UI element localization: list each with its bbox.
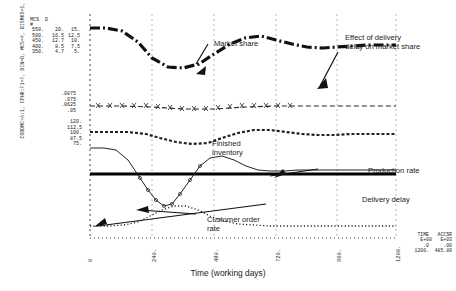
xtick-0: 0 bbox=[88, 259, 94, 262]
xtick-960: 960. bbox=[337, 249, 343, 262]
x-axis-title: Time (working days) bbox=[0, 268, 456, 278]
arrow-order-rate bbox=[136, 206, 149, 213]
y-ticks-col4: .0875 .075 .0625 .05 bbox=[54, 92, 76, 114]
leader-effect-delay bbox=[320, 52, 338, 86]
y-ticks-col5: 120. 112.5 100. 87.5 75. bbox=[60, 120, 82, 148]
arrow-market-share bbox=[196, 66, 206, 75]
annotation-market-share: Market share bbox=[214, 40, 258, 49]
xtick-240: 240. bbox=[152, 249, 158, 262]
annotation-customer-order-rate: Customer order rate bbox=[207, 216, 267, 233]
xtick-1200: 1200. bbox=[396, 246, 402, 262]
series-effect-markers bbox=[96, 103, 292, 111]
series-order-rate-markers bbox=[138, 164, 201, 207]
xtick-720: 720. bbox=[276, 249, 282, 262]
y-ticks-col3: 15. 12.5 10. 7.5 5. bbox=[62, 28, 80, 56]
summary-table: TIME ACCSR E+00 E+03 .0 .00 1200. 485.89 bbox=[415, 232, 452, 254]
xtick-480: 480. bbox=[214, 249, 220, 262]
annotation-production-rate: Production rate bbox=[368, 167, 424, 176]
y-ticks-col1: 550. 500. 450. 400. 350. bbox=[22, 28, 44, 56]
annotation-delivery-delay: Delivery delay bbox=[362, 196, 418, 205]
chart-root: CORDMC=A:1, CPHR:F1=F, DIN=D, MCS=#, BIS… bbox=[0, 0, 456, 291]
y-ticks-col2: 20. 16.5 12.7 8.5 4.7 bbox=[44, 28, 64, 56]
arrow-effect-delay bbox=[317, 78, 328, 89]
annotation-effect-delivery-delay: Effect of delivery delay on market share bbox=[345, 34, 421, 51]
annotation-finished-inventory: Finished inventory bbox=[212, 140, 272, 157]
